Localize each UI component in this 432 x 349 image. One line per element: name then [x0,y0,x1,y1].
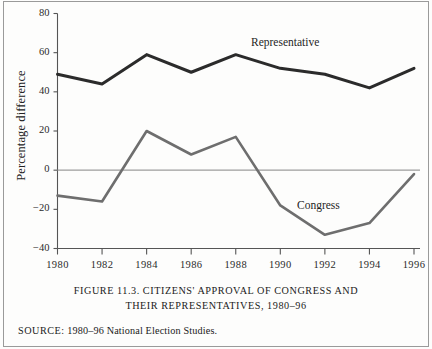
y-tick-label: 80 [24,7,50,18]
chart-svg [0,0,432,285]
y-tick-label: 60 [24,46,50,57]
series-line-congress [58,131,415,235]
y-tick-label: 0 [24,163,50,174]
caption-line-2: THEIR REPRESENTATIVES, 1980–96 [16,298,416,313]
source-text: 1980–96 National Election Studies. [65,325,218,336]
figure-source: SOURCE: 1980–96 National Election Studie… [18,325,414,336]
x-tick-label: 1982 [80,259,124,270]
series-label-representative: Representative [251,36,319,48]
x-tick-label: 1986 [169,259,213,270]
y-tick-label: 20 [24,124,50,135]
x-tick-label: 1994 [347,259,391,270]
y-tick-label: −20 [24,202,50,213]
series-label-congress: Congress [297,199,340,211]
plot-area: Percentage difference 806040200−20−40 19… [0,0,432,285]
series-group [58,55,415,235]
x-tick-label: 1990 [258,259,302,270]
y-tick-label: 40 [24,85,50,96]
x-tick-label: 1988 [214,259,258,270]
axis-group [54,14,421,255]
figure-container: Percentage difference 806040200−20−40 19… [0,0,432,349]
figure-caption: FIGURE 11.3. CITIZENS' APPROVAL OF CONGR… [16,283,416,313]
source-label: SOURCE: [18,325,65,336]
caption-line-1: FIGURE 11.3. CITIZENS' APPROVAL OF CONGR… [74,285,358,296]
x-tick-label: 1992 [303,259,347,270]
x-tick-label: 1996 [392,259,432,270]
x-tick-label: 1980 [36,259,80,270]
x-tick-label: 1984 [125,259,169,270]
y-tick-label: −40 [24,242,50,253]
series-line-representative [58,55,415,88]
